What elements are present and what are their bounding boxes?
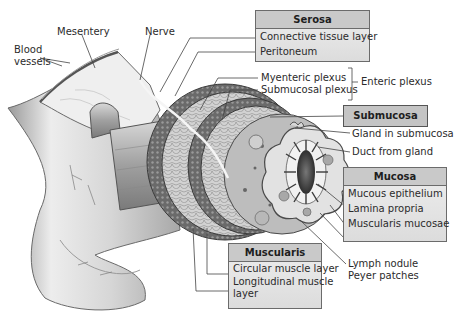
label-enteric-plexus: Enteric plexus — [361, 76, 432, 88]
muscularis-item-longitudinal: Longitudinal muscle — [229, 276, 321, 288]
mucosa-item-mucous-epithelium: Mucous epithelium — [344, 186, 446, 201]
muscularis-box: Muscularis Circular muscle layer Longitu… — [228, 243, 322, 309]
label-nerve: Nerve — [145, 26, 175, 38]
label-mesentery: Mesentery — [57, 26, 110, 38]
submucosa-box: Submucosa — [343, 105, 428, 127]
muscularis-title: Muscularis — [229, 244, 321, 262]
serosa-title: Serosa — [256, 11, 369, 29]
label-myenteric-plexus: Myenteric plexus — [261, 72, 346, 84]
mucosa-box: Mucosa Mucous epithelium Lamina propria … — [343, 167, 447, 242]
label-duct-from-gland: Duct from gland — [352, 146, 433, 158]
label-submucosal-plexus: Submucosal plexus — [261, 84, 358, 96]
label-lymph-nodule: Lymph nodule — [348, 258, 418, 270]
serosa-box: Serosa Connective tissue layer Peritoneu… — [255, 10, 370, 62]
label-blood-vessels-1: Blood — [14, 44, 42, 56]
mucosa-item-muscularis-mucosae: Muscularis mucosae — [344, 216, 446, 231]
label-peyer-patches: Peyer patches — [348, 270, 419, 282]
mucosa-item-lamina-propria: Lamina propria — [344, 201, 446, 216]
serosa-item-connective-tissue: Connective tissue layer — [256, 29, 369, 44]
muscularis-item-longitudinal-cont: layer — [229, 288, 321, 299]
label-blood-vessels-2: vessels — [14, 56, 51, 68]
mucosa-title: Mucosa — [344, 168, 446, 186]
serosa-item-peritoneum: Peritoneum — [256, 44, 369, 59]
label-gland-in-submucosa: Gland in submucosa — [352, 128, 454, 140]
muscularis-item-circular: Circular muscle layer — [229, 262, 321, 276]
